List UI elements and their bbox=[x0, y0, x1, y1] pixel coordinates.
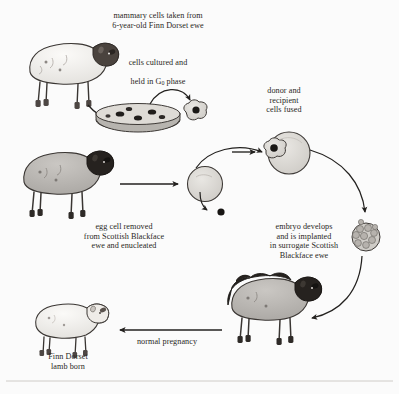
arrow-dish-to-donor-cell bbox=[150, 90, 190, 104]
caption-cultured-line2-pre: held in G bbox=[131, 77, 162, 86]
arrow-fusion-to-embryo bbox=[310, 150, 365, 212]
extracted-nucleus bbox=[217, 208, 224, 215]
egg-cell-figure bbox=[188, 167, 223, 202]
caption-embryo-implanted: embryo develops and is implanted in surr… bbox=[243, 222, 365, 261]
caption-egg-cell-removed: egg cell removed from Scottish Blackface… bbox=[40, 222, 208, 251]
caption-normal-pregnancy: normal pregnancy bbox=[112, 337, 222, 347]
finn-dorset-lamb-figure bbox=[36, 304, 109, 358]
petri-dish-figure bbox=[96, 104, 180, 133]
caption-lamb-born: Finn Dorset lamb born bbox=[12, 352, 124, 371]
caption-cells-cultured: cells cultured and held in G0 phase bbox=[88, 48, 228, 87]
caption-cultured-line2-post: phase bbox=[164, 77, 185, 86]
caption-cultured-line1: cells cultured and bbox=[129, 58, 188, 67]
donor-cell-figure bbox=[184, 100, 207, 120]
fused-cell-figure bbox=[264, 132, 310, 174]
scottish-blackface-ewe-figure bbox=[24, 151, 114, 219]
caption-mammary-cells: mammary cells taken from 6-year-old Finn… bbox=[78, 11, 238, 30]
caption-donor-recipient-fused: donor and recipient cells fused bbox=[235, 86, 333, 115]
arrow-egg-to-fusion bbox=[196, 148, 262, 168]
surrogate-ewe-figure bbox=[228, 273, 322, 345]
